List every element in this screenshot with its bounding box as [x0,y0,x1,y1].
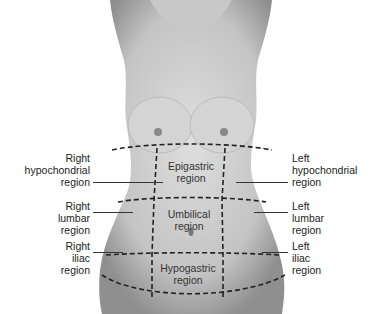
label-left-lumbar: Left lumbar region [292,200,379,236]
pointer-right-hypochondrial [93,182,163,183]
pointer-right-iliac [93,252,123,253]
pointer-left-iliac [262,252,288,253]
left-breast [190,97,254,153]
label-hypogastric: Hypogastric region [152,262,224,286]
label-right-lumbar: Right lumbar region [0,200,90,236]
label-umbilical: Umbilical region [156,208,222,232]
pointer-left-hypochondrial [236,182,288,183]
pointer-right-lumbar [93,212,133,213]
label-left-iliac: Left iliac region [292,240,379,276]
label-epigastric: Epigastric region [158,160,224,184]
label-right-iliac: Right iliac region [0,240,90,276]
label-right-hypochondrial: Right hypochondrial region [0,152,90,188]
pointer-left-lumbar [254,212,288,213]
label-left-hypochondrial: Left hypochondrial region [292,152,379,188]
